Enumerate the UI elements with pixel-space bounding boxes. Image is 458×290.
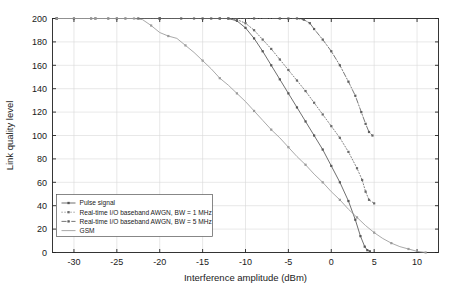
- data-point-marker: [279, 58, 281, 60]
- data-point-marker: [253, 37, 255, 39]
- data-point-marker: [356, 167, 358, 169]
- data-point-marker: [313, 28, 315, 30]
- legend-label: GSM: [80, 227, 95, 234]
- data-point-marker: [339, 137, 341, 139]
- data-point-marker: [322, 148, 324, 150]
- x-tick-label: -15: [196, 257, 209, 267]
- data-point-marker: [56, 17, 58, 19]
- data-point-marker: [322, 113, 324, 115]
- data-point-marker: [368, 131, 370, 133]
- y-axis-tick-labels: 020406080100120140160180200: [32, 14, 47, 258]
- data-point-marker: [330, 50, 332, 52]
- legend-label: Real-time I/O baseband AWGN, BW = 5 MHz: [80, 218, 212, 225]
- data-point-marker: [270, 64, 272, 66]
- data-point-marker: [253, 17, 255, 19]
- data-point-marker: [361, 179, 363, 181]
- data-point-marker: [304, 120, 306, 122]
- data-point-marker: [364, 191, 366, 193]
- data-point-marker: [347, 151, 349, 153]
- data-point-marker: [330, 165, 332, 167]
- data-point-marker: [270, 48, 272, 50]
- y-tick-label: 60: [37, 178, 47, 188]
- data-point-marker: [296, 79, 298, 81]
- data-point-marker: [279, 17, 281, 19]
- x-tick-label: -10: [239, 257, 252, 267]
- y-tick-label: 0: [42, 248, 47, 258]
- y-axis-title: Link quality level: [4, 101, 15, 171]
- legend-label: Real-time I/O baseband AWGN, BW = 1 MHz: [80, 209, 212, 216]
- data-point-marker: [371, 134, 373, 136]
- data-point-marker: [322, 181, 324, 183]
- y-tick-label: 140: [32, 84, 47, 94]
- data-point-marker: [287, 17, 289, 19]
- y-tick-label: 40: [37, 201, 47, 211]
- data-point-marker: [347, 81, 349, 83]
- data-point-marker: [296, 17, 298, 19]
- legend-marker-sample: [67, 202, 69, 204]
- data-point-marker: [407, 248, 409, 250]
- data-point-marker: [425, 251, 427, 253]
- data-point-marker: [279, 78, 281, 80]
- data-point-marker: [364, 123, 366, 125]
- y-tick-label: 80: [37, 154, 47, 164]
- data-point-marker: [339, 181, 341, 183]
- data-point-marker: [210, 17, 212, 19]
- data-point-marker: [236, 92, 238, 94]
- data-point-marker: [244, 27, 246, 29]
- data-point-marker: [347, 200, 349, 202]
- data-point-marker: [287, 146, 289, 148]
- x-tick-label: -25: [110, 257, 123, 267]
- data-point-marker: [262, 50, 264, 52]
- data-point-marker: [339, 64, 341, 66]
- chart-legend: Pulse signalReal-time I/O baseband AWGN,…: [57, 195, 213, 237]
- data-point-marker: [304, 90, 306, 92]
- y-tick-label: 200: [32, 14, 47, 24]
- data-point-marker: [313, 102, 315, 104]
- x-tick-label: -5: [284, 257, 292, 267]
- data-point-marker: [167, 35, 169, 37]
- data-point-marker: [322, 38, 324, 40]
- legend-marker-sample: [67, 220, 69, 222]
- data-point-marker: [253, 110, 255, 112]
- x-tick-label: -30: [67, 257, 80, 267]
- y-tick-label: 100: [32, 131, 47, 141]
- chart-container: -30-25-20-15-10-50510 020406080100120140…: [0, 0, 458, 290]
- y-tick-label: 180: [32, 37, 47, 47]
- legend-item-2[interactable]: Real-time I/O baseband AWGN, BW = 5 MHz: [62, 218, 212, 225]
- data-point-marker: [303, 19, 305, 21]
- data-point-marker: [354, 219, 356, 221]
- data-point-marker: [373, 202, 375, 204]
- data-point-marker: [369, 250, 371, 252]
- x-axis-title: Interference amplitude (dBm): [184, 272, 307, 283]
- data-point-marker: [219, 77, 221, 79]
- data-point-marker: [262, 38, 264, 40]
- data-point-marker: [359, 235, 361, 237]
- data-point-marker: [159, 17, 161, 19]
- data-point-marker: [313, 134, 315, 136]
- data-point-marker: [354, 95, 356, 97]
- legend-marker-sample: [67, 211, 69, 213]
- data-point-marker: [356, 216, 358, 218]
- data-point-marker: [253, 29, 255, 31]
- data-point-marker: [339, 199, 341, 201]
- data-point-marker: [244, 22, 246, 24]
- data-point-marker: [287, 69, 289, 71]
- data-point-marker: [296, 106, 298, 108]
- data-point-marker: [368, 199, 370, 201]
- data-point-marker: [390, 242, 392, 244]
- data-point-marker: [366, 249, 368, 251]
- x-tick-label: 10: [412, 257, 422, 267]
- x-tick-label: 0: [329, 257, 334, 267]
- data-point-marker: [150, 24, 152, 26]
- x-tick-label: -20: [153, 257, 166, 267]
- data-point-marker: [133, 17, 135, 19]
- data-point-marker: [94, 17, 96, 19]
- data-point-marker: [184, 44, 186, 46]
- data-point-marker: [309, 22, 311, 24]
- legend-item-1[interactable]: Real-time I/O baseband AWGN, BW = 1 MHz: [62, 209, 212, 216]
- y-tick-label: 20: [37, 224, 47, 234]
- data-point-marker: [202, 60, 204, 62]
- data-point-marker: [330, 125, 332, 127]
- data-point-marker: [287, 92, 289, 94]
- x-axis-tick-labels: -30-25-20-15-10-50510: [67, 257, 422, 267]
